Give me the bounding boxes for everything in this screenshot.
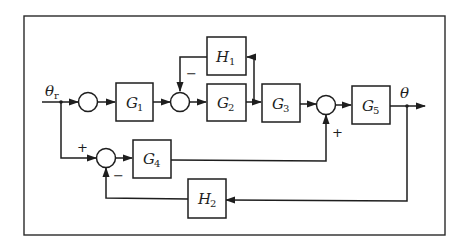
- summing-junction-1: [79, 93, 98, 112]
- summing-junction-4: [97, 149, 116, 168]
- block-g1: G 1: [116, 83, 153, 121]
- s2-minus-sign: −: [186, 66, 197, 81]
- svg-text:θ: θ: [45, 82, 54, 100]
- block-h2: H 2: [188, 179, 226, 218]
- svg-text:2: 2: [210, 198, 216, 209]
- svg-text:2: 2: [228, 102, 234, 113]
- summing-junction-2: [171, 93, 190, 112]
- s3-plus-sign: +: [332, 125, 343, 140]
- s4-minus-sign: −: [113, 168, 124, 183]
- svg-text:H: H: [215, 48, 230, 66]
- block-g5: G 5: [352, 86, 390, 124]
- input-signal-label: θ r: [45, 82, 59, 101]
- block-g4: G 4: [133, 140, 171, 178]
- svg-text:4: 4: [154, 158, 160, 169]
- svg-text:r: r: [54, 90, 59, 101]
- g4-to-s3-line: [171, 115, 326, 161]
- block-h1: H 1: [207, 37, 246, 75]
- svg-text:3: 3: [283, 103, 289, 114]
- block-g2: G 2: [207, 84, 246, 121]
- output-signal-label: θ: [400, 84, 409, 102]
- svg-text:1: 1: [229, 56, 235, 67]
- block-diagram: θ r G 1 − H 1 G 2 G 3 + G: [0, 0, 464, 251]
- svg-text:5: 5: [373, 105, 379, 116]
- svg-text:1: 1: [137, 102, 143, 113]
- summing-junction-3: [317, 96, 336, 115]
- block-g3: G 3: [262, 84, 300, 122]
- s4-plus-sign: +: [77, 140, 88, 155]
- g2-to-h1-line: [247, 57, 254, 102]
